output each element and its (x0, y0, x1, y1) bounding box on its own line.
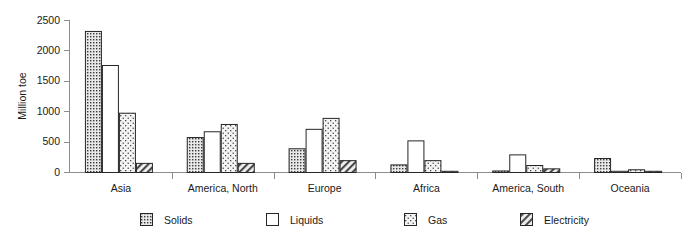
bar (238, 163, 254, 172)
bar (221, 124, 237, 172)
legend-label: Liquids (290, 214, 323, 226)
bar (493, 171, 509, 173)
bar (340, 161, 356, 173)
legend-item[interactable]: Gas (405, 214, 448, 226)
x-axis: AsiaAmerica, NorthEuropeAfricaAmerica, S… (70, 173, 682, 195)
legend: SolidsLiquidsGasElectricity (141, 214, 590, 226)
bar (85, 31, 101, 172)
legend-item[interactable]: Electricity (521, 214, 590, 226)
bar (612, 171, 628, 172)
legend-swatch (521, 214, 533, 226)
y-tick-label: 500 (42, 135, 60, 147)
bar (646, 171, 662, 172)
legend-swatch (267, 214, 279, 226)
y-axis: 05001000150020002500 Million toe (16, 14, 70, 178)
y-tick-label: 2000 (37, 44, 61, 56)
legend-item[interactable]: Solids (141, 214, 193, 226)
legend-label: Solids (164, 214, 193, 226)
bar (323, 118, 339, 172)
legend-swatch (141, 214, 153, 226)
x-category-label: Africa (413, 182, 440, 194)
y-tick-label: 1500 (37, 74, 61, 86)
bar (102, 65, 118, 172)
x-axis-ticks (173, 173, 682, 180)
bar (119, 113, 135, 172)
bar (204, 132, 220, 173)
legend-label: Electricity (544, 214, 590, 226)
bar-group (85, 31, 152, 172)
bar (306, 129, 322, 172)
x-category-label: Oceania (611, 182, 650, 194)
bar (289, 149, 305, 173)
bar-chart: 05001000150020002500 Million toe AsiaAme… (0, 0, 688, 248)
bar (544, 169, 560, 173)
bar (425, 161, 441, 173)
bar (629, 170, 645, 173)
x-category-label: America, South (492, 182, 564, 194)
chart-container: 05001000150020002500 Million toe AsiaAme… (0, 0, 688, 248)
bar (442, 171, 458, 172)
x-axis-category-labels: AsiaAmerica, NorthEuropeAfricaAmerica, S… (111, 182, 650, 194)
bar (527, 166, 543, 173)
bars-layer (85, 31, 661, 172)
x-category-label: Europe (308, 182, 342, 194)
y-tick-label: 1000 (37, 105, 61, 117)
bar (136, 163, 152, 172)
bar (510, 155, 526, 173)
legend-swatch (405, 214, 417, 226)
bar-group (391, 141, 458, 173)
bar-group (187, 124, 254, 172)
bar (187, 138, 203, 173)
y-axis-ticks (64, 21, 70, 173)
bar-group (493, 155, 560, 173)
bar (391, 165, 407, 173)
bar (408, 141, 424, 173)
legend-item[interactable]: Liquids (267, 214, 324, 226)
legend-label: Gas (428, 214, 447, 226)
bar-group (289, 118, 356, 172)
y-axis-title: Million toe (16, 72, 28, 119)
y-tick-label: 2500 (37, 14, 61, 26)
bar-group (595, 159, 662, 173)
x-category-label: America, North (188, 182, 258, 194)
y-axis-tick-labels: 05001000150020002500 (37, 14, 61, 178)
bar (595, 159, 611, 173)
x-category-label: Asia (111, 182, 132, 194)
y-tick-label: 0 (54, 166, 60, 178)
